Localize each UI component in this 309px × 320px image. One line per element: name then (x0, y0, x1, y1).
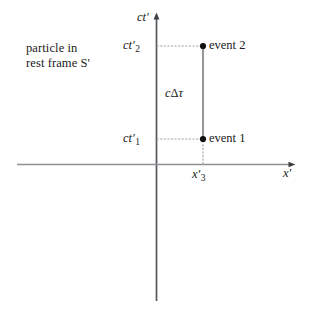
caption-line-2: rest frame S' (26, 56, 90, 71)
ct-prime-axis-label-prime: ′ (146, 10, 149, 24)
ct-prime-axis-arrowhead (154, 13, 160, 20)
event-1-dot[interactable] (200, 136, 206, 142)
event-1-label: event 1 (209, 131, 245, 146)
tick-label-ct1-subscript: 1 (135, 137, 140, 147)
tick-label-ct2: ct′2 (123, 38, 140, 53)
ct-prime-axis-label: ct′ (137, 10, 149, 25)
tick-label-ct2-base: ct (123, 38, 132, 52)
spacetime-diagram: particle in rest frame S' ct′ x′ ct′2 ct… (0, 0, 309, 320)
x-prime-axis-label-prime: ′ (289, 166, 292, 180)
tick-label-ct1-base: ct (123, 131, 132, 145)
x-prime-axis-label: x′ (283, 166, 291, 181)
interval-tau: τ (179, 86, 183, 100)
proper-time-interval-label: cΔτ (165, 86, 183, 101)
event-2-label: event 2 (209, 38, 245, 53)
tick-label-x3-subscript: 3 (201, 173, 206, 183)
caption-block: particle in rest frame S' (26, 41, 90, 71)
ct-prime-axis-label-text: ct (137, 10, 146, 24)
event-2-dot[interactable] (200, 43, 206, 49)
tick-label-x3-prime: ′ (198, 167, 201, 181)
tick-label-x3: x′3 (192, 167, 205, 182)
tick-label-ct2-subscript: 2 (135, 44, 140, 54)
caption-line-1: particle in (26, 41, 90, 56)
tick-label-ct1: ct′1 (123, 131, 140, 146)
interval-delta: Δ (171, 86, 179, 100)
